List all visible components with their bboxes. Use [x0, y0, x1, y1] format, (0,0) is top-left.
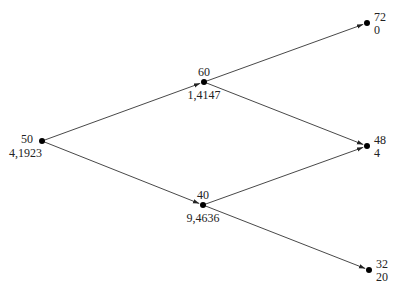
edge-arrow-down-dd [203, 205, 365, 269]
node-value-label: 40 [197, 188, 209, 202]
node-secondary-label: 0 [374, 23, 380, 37]
node-dot-icon [201, 79, 207, 85]
node-value-label: 60 [198, 65, 210, 79]
node-ud: 484 [364, 133, 386, 160]
node-down: 409,4636 [187, 188, 220, 225]
node-value-label: 72 [374, 10, 386, 24]
node-dot-icon [364, 20, 370, 26]
node-value-label: 50 [21, 132, 33, 146]
edge-arrow-down-ud [203, 147, 363, 205]
node-dot-icon [200, 202, 206, 208]
edges [42, 24, 365, 268]
node-dot-icon [364, 143, 370, 149]
node-uu: 720 [364, 10, 386, 37]
node-secondary-label: 20 [376, 270, 388, 284]
node-secondary-label: 1,4147 [188, 88, 221, 102]
node-root: 504,1923 [9, 132, 45, 160]
edge-arrow-root-up [42, 83, 200, 141]
node-secondary-label: 9,4636 [187, 211, 220, 225]
node-dd: 3220 [366, 257, 388, 284]
node-dot-icon [39, 138, 45, 144]
node-dot-icon [366, 267, 372, 273]
node-secondary-label: 4 [374, 146, 380, 160]
node-value-label: 32 [376, 257, 388, 271]
node-secondary-label: 4,1923 [9, 146, 42, 160]
node-up: 601,4147 [188, 65, 221, 102]
edge-arrow-up-uu [204, 24, 363, 82]
node-value-label: 48 [374, 133, 386, 147]
binomial-tree-diagram: 504,1923601,4147409,46367204843220 [0, 0, 401, 294]
nodes: 504,1923601,4147409,46367204843220 [9, 10, 388, 284]
edge-arrow-root-down [42, 141, 199, 204]
edge-arrow-up-ud [204, 82, 363, 145]
